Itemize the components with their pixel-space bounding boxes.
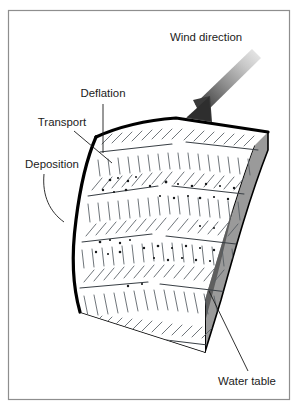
label-deposition: Deposition — [25, 158, 79, 170]
label-deflation: Deflation — [81, 87, 126, 99]
label-water-table: Water table — [218, 375, 276, 387]
dune-block-diagram: Wind direction Deflation Transport Depos… — [0, 0, 298, 414]
label-wind-direction: Wind direction — [170, 31, 242, 43]
label-transport: Transport — [38, 116, 87, 128]
